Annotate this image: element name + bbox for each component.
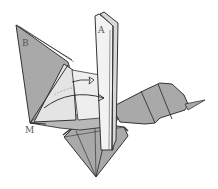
- label-m: M: [25, 125, 34, 135]
- label-a: A: [97, 25, 105, 35]
- right-flap: [112, 83, 205, 124]
- bottom-flap: [63, 124, 128, 177]
- label-b: B: [22, 38, 29, 48]
- origami-diagram: B A M: [0, 0, 218, 189]
